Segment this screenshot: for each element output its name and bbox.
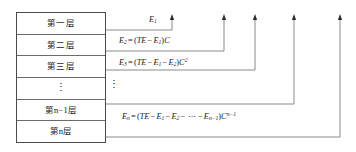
- layer-row-label: 第n层: [50, 127, 73, 136]
- formula-token: −: [181, 112, 186, 121]
- layer-row-ellipsis: ⋮: [17, 78, 105, 100]
- formula-en: En=(TE−E1−E2−⋯−En−1)Cn−1: [122, 112, 236, 121]
- formula-e1: E1: [149, 16, 157, 25]
- formula-token: −: [151, 112, 156, 121]
- formula-token: −: [148, 58, 153, 67]
- formula-token: n−1: [227, 111, 236, 117]
- formula-token: =: [131, 112, 136, 121]
- layer-row-label: 第n−1层: [45, 106, 77, 115]
- formula-token: −: [148, 36, 153, 45]
- formula-token: 2: [124, 39, 127, 45]
- layer-row-n-minus-1: 第n−1层: [17, 100, 105, 122]
- layer-stack: 第一层 第二层 第三层 ⋮ 第n−1层 第n层: [16, 12, 106, 143]
- layer-row-n: 第n层: [17, 121, 105, 142]
- formula-token: n−1: [209, 115, 218, 121]
- layer-row-label: 第二层: [47, 41, 75, 50]
- formula-token: =: [128, 58, 133, 67]
- formula-token: −: [166, 112, 171, 121]
- formula-token: 2: [177, 115, 180, 121]
- connector-1-arrowhead-icon: [170, 14, 174, 20]
- connector-2-arrowhead-icon: [222, 14, 226, 20]
- formula-token: TE: [137, 36, 147, 45]
- formula-token: 2: [185, 57, 188, 63]
- formula-e3: E3=(TE−E1−E2)C2: [119, 58, 187, 67]
- connector-5-arrowhead-icon: [338, 14, 342, 20]
- formula-token: n: [127, 115, 130, 121]
- formula-token: =: [128, 36, 133, 45]
- outside-vertical-ellipsis-icon: ⋮: [109, 80, 119, 89]
- formula-token: TE: [140, 112, 150, 121]
- vertical-ellipsis-icon: ⋮: [56, 83, 66, 92]
- connector-1-line: [106, 18, 172, 30]
- layer-row-3: 第三层: [17, 56, 105, 78]
- connector-3-arrowhead-icon: [253, 14, 257, 20]
- connector-2-line: [106, 18, 224, 51]
- formula-token: 1: [159, 61, 162, 67]
- layer-row-label: 第三层: [47, 62, 75, 71]
- formula-token: −: [198, 112, 203, 121]
- formula-token: TE: [137, 58, 147, 67]
- layer-row-1: 第一层: [17, 13, 105, 35]
- layer-energy-diagram: 第一层 第二层 第三层 ⋮ 第n−1层 第n层 ⋮ E1 E2=(TE−E1)C…: [0, 0, 356, 152]
- formula-token: 1: [162, 115, 165, 121]
- formula-e2: E2=(TE−E1)C: [119, 37, 170, 46]
- formula-token: 1: [154, 18, 157, 24]
- layer-row-label: 第一层: [47, 19, 75, 28]
- layer-row-2: 第二层: [17, 35, 105, 57]
- formula-token: ⋯: [188, 112, 196, 121]
- formula-token: C: [164, 36, 170, 45]
- formula-token: −: [163, 58, 168, 67]
- formula-token: 3: [124, 61, 127, 67]
- connector-4-arrowhead-icon: [292, 14, 296, 20]
